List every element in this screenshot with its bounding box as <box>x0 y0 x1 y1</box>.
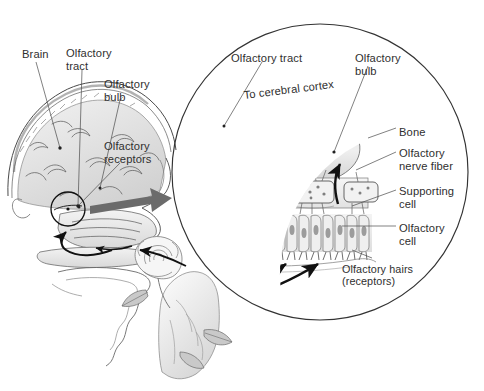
rose-illustration <box>0 0 484 391</box>
figure-canvas: Brain Olfactory tract Olfactory bulb Olf… <box>0 0 484 391</box>
